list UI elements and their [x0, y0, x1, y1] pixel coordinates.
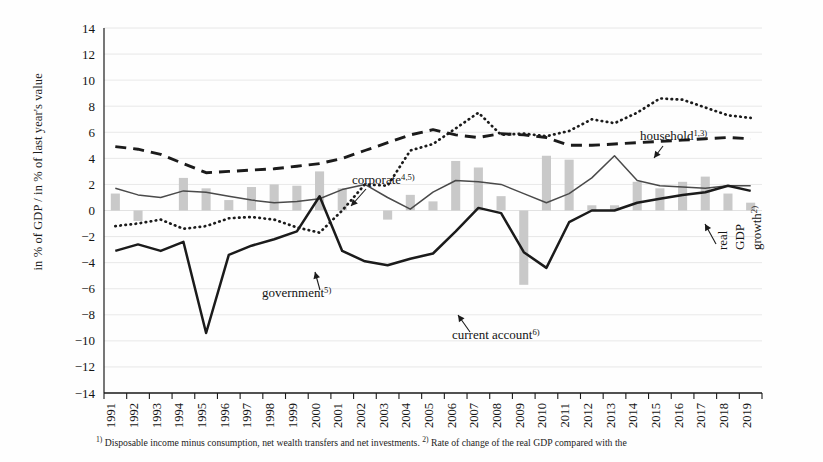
y-tick-label: −10	[75, 333, 95, 348]
y-tick-label: 14	[82, 21, 96, 36]
bar	[179, 178, 188, 211]
x-tick-label: 2017	[694, 403, 708, 428]
real-gdp-growth-label-line1: real	[715, 230, 730, 250]
x-tick-label: 2001	[331, 403, 345, 428]
x-tick-label: 2006	[445, 403, 459, 428]
footnote: 1) Disposable income minus consumption, …	[96, 434, 806, 449]
annotation-text: current account	[452, 327, 533, 342]
annotation-arrowhead	[654, 151, 661, 158]
annotation-text: government	[262, 285, 324, 300]
x-tick-label: 1997	[240, 403, 254, 428]
y-tick-labels-group: 14121086420−2−4−6−8−10−12−14	[75, 21, 96, 401]
x-tick-label: 1998	[263, 403, 277, 428]
annotation-arrowhead	[313, 272, 320, 279]
x-tick-label: 2003	[377, 403, 391, 428]
annotation-text: household	[640, 128, 694, 143]
x-tick-label: 2009	[513, 403, 527, 428]
annotation-arrowhead	[458, 315, 465, 322]
y-tick-label: −12	[75, 359, 95, 374]
y-tick-label: 6	[89, 125, 96, 140]
real-gdp-growth-label-line2: GDP	[732, 224, 747, 250]
bar	[270, 184, 279, 210]
y-tick-label: 8	[89, 99, 96, 114]
annotation-superscript: 5)	[324, 285, 331, 295]
bar	[383, 211, 392, 220]
bar	[224, 200, 233, 210]
bar	[247, 187, 256, 210]
bar	[565, 160, 574, 211]
y-tick-label: −8	[81, 307, 95, 322]
x-tick-label: 1995	[195, 403, 209, 428]
x-tick-label: 1991	[104, 403, 118, 428]
bar	[474, 167, 483, 210]
real-gdp-growth-label-line3: growth2)	[749, 206, 765, 250]
x-tick-label: 2013	[604, 403, 618, 428]
axes-group	[104, 28, 762, 399]
bar	[723, 194, 732, 211]
bar	[133, 211, 142, 221]
x-tick-label: 2015	[649, 403, 663, 428]
y-tick-label: 10	[82, 73, 95, 88]
x-tick-label: 2011	[558, 403, 572, 428]
bar	[111, 194, 120, 211]
x-tick-label: 1994	[172, 402, 186, 428]
bar	[497, 196, 506, 210]
y-tick-label: 0	[89, 203, 96, 218]
x-tick-label: 1996	[218, 403, 232, 428]
annotation-superscript: 1,3)	[693, 128, 707, 138]
y-tick-label: −14	[75, 386, 96, 401]
x-tick-label: 1992	[127, 403, 141, 428]
x-tick-label: 2010	[535, 403, 549, 428]
bar	[428, 201, 437, 210]
annotation-superscript: 4,5)	[401, 172, 415, 182]
x-tick-label: 2016	[672, 403, 686, 428]
bar	[451, 161, 460, 211]
annotation-superscript: 2)	[749, 206, 759, 213]
y-tick-label: −4	[81, 255, 95, 270]
chart-page: in % of GDP / in % of last year's value …	[0, 0, 823, 462]
x-tick-label: 2004	[399, 402, 413, 428]
annotation-label: government5)	[262, 285, 331, 301]
y-tick-label: 4	[89, 151, 96, 166]
y-tick-label: −2	[81, 229, 95, 244]
x-tick-label: 2019	[740, 403, 754, 428]
bar	[292, 186, 301, 211]
footnote-text-1: Disposable income minus consumption, net…	[105, 437, 420, 448]
bar-series-group	[111, 156, 755, 285]
x-tick-label: 1999	[286, 403, 300, 428]
footnote-marker-2: 2)	[422, 435, 428, 444]
x-tick-label: 2008	[490, 403, 504, 428]
y-tick-label: 12	[82, 47, 95, 62]
y-tick-label: 2	[89, 177, 96, 192]
annotation-label: current account6)	[452, 327, 540, 343]
annotation-superscript: 6)	[532, 327, 539, 337]
y-tick-label: −6	[81, 281, 95, 296]
x-tick-label: 2000	[309, 403, 323, 428]
bar	[633, 182, 642, 211]
footnote-text-2: Rate of change of the real GDP compared …	[431, 437, 627, 448]
series-line-current-account	[115, 98, 750, 232]
x-tick-label: 2002	[354, 403, 368, 428]
x-tick-label: 2007	[467, 403, 481, 428]
x-tick-labels-group: 1991199219931994199519961997199819992000…	[104, 402, 753, 428]
x-tick-label: 2005	[422, 403, 436, 428]
x-tick-label: 1993	[150, 403, 164, 428]
annotation-text: corporate	[352, 172, 401, 187]
chart-canvas: in % of GDP / in % of last year's value …	[0, 0, 823, 462]
footnote-marker-1: 1)	[96, 435, 102, 444]
x-tick-label: 2014	[626, 402, 640, 428]
x-tick-label: 2012	[581, 403, 595, 428]
sectoral-balances-chart: 14121086420−2−4−6−8−10−12−14 19911992199…	[0, 0, 823, 462]
x-tick-label: 2018	[717, 403, 731, 428]
